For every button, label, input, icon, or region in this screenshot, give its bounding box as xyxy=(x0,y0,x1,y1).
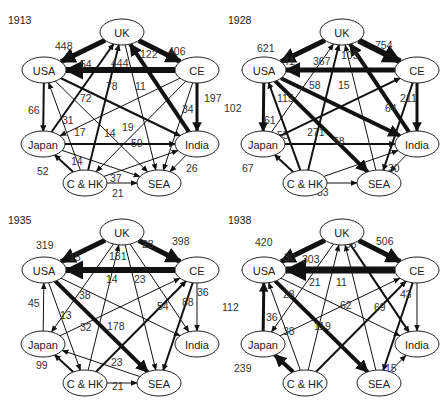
flow-value-label: 17 xyxy=(74,126,86,138)
flow-value-label: 319 xyxy=(36,239,54,251)
flow-value-label: 19 xyxy=(122,121,134,133)
flow-value-label: 67 xyxy=(242,162,254,174)
region-label: C & HK xyxy=(287,178,324,190)
panel-year-label: 1938 xyxy=(228,214,252,226)
flow-value-label: 506 xyxy=(376,235,394,247)
region-label: Japan xyxy=(28,139,58,151)
flow-value-label: 58 xyxy=(309,79,321,91)
flow-arrow-uk-to-sea xyxy=(125,245,156,370)
region-label: UK xyxy=(334,27,350,39)
region-node-japan: Japan xyxy=(241,131,285,157)
flow-value-label: 367 xyxy=(313,55,331,67)
region-label: Japan xyxy=(248,139,278,151)
flow-arrow-usa-to-chk xyxy=(49,283,81,371)
region-label: C & HK xyxy=(287,378,324,390)
flow-value-label: 115 xyxy=(277,92,294,104)
network-panel-1913: 1913448406444122197547811723466311714195… xyxy=(8,14,222,199)
flow-value-label: 54 xyxy=(157,300,169,312)
flow-value-label: 119 xyxy=(314,320,331,332)
region-label: CE xyxy=(409,65,424,77)
region-node-usa: USA xyxy=(22,257,66,283)
flow-value-label: 78 xyxy=(106,80,118,92)
network-panel-1935: 1935319398181152814231338364554883217823… xyxy=(8,214,219,396)
region-node-uk: UK xyxy=(100,219,144,245)
region-label: India xyxy=(405,339,430,351)
flow-value-label: 271 xyxy=(307,126,325,138)
flow-value-label: 178 xyxy=(107,320,125,332)
flow-value-label: 52 xyxy=(37,165,49,177)
flow-value-label: 43 xyxy=(400,288,412,300)
region-node-sea: SEA xyxy=(357,370,401,396)
region-label: UK xyxy=(114,227,130,239)
flow-value-label: 21 xyxy=(112,187,124,199)
region-label: SEA xyxy=(368,378,391,390)
flow-arrow-chk-to-japan xyxy=(55,355,73,372)
network-panel-1938: 1938420506303309621114328626911236381192… xyxy=(222,214,439,396)
region-label: USA xyxy=(33,65,56,77)
flow-arrow-usa-to-japan xyxy=(43,83,44,131)
flow-value-label: 32 xyxy=(80,321,92,333)
flow-value-label: 13 xyxy=(60,309,72,321)
flow-value-label: 211 xyxy=(400,92,417,104)
flow-value-label: 14 xyxy=(104,127,116,139)
region-node-sea: SEA xyxy=(137,170,181,196)
flow-value-label: 30 xyxy=(284,251,296,263)
region-node-chk: C & HK xyxy=(283,170,327,196)
flow-value-label: 61 xyxy=(264,114,276,126)
region-label: India xyxy=(405,139,430,151)
region-node-uk: UK xyxy=(100,19,144,45)
flow-value-label: 28 xyxy=(283,288,295,300)
flow-value-label: 58 xyxy=(333,135,345,147)
flow-value-label: 398 xyxy=(172,235,190,247)
region-label: Japan xyxy=(248,339,278,351)
flow-value-label: 102 xyxy=(224,102,242,114)
region-label: C & HK xyxy=(67,378,104,390)
region-label: USA xyxy=(253,265,276,277)
flow-value-label: 14 xyxy=(106,273,118,285)
flow-value-label: 14 xyxy=(71,155,83,167)
flow-value-label: 21 xyxy=(309,276,321,288)
flow-value-label: 34 xyxy=(182,103,194,115)
flow-value-label: 28 xyxy=(142,238,154,250)
region-node-ce: CE xyxy=(175,57,219,83)
flow-value-label: 15 xyxy=(69,251,81,263)
flow-value-label: 26 xyxy=(186,162,198,174)
region-node-sea: SEA xyxy=(357,170,401,196)
flow-arrow-japan-to-usa xyxy=(43,283,44,331)
region-label: CE xyxy=(409,265,424,277)
region-label: CE xyxy=(189,65,204,77)
region-node-india: India xyxy=(175,131,219,157)
flow-value-label: 62 xyxy=(340,299,352,311)
region-node-sea: SEA xyxy=(137,370,181,396)
flow-value-label: 59 xyxy=(131,137,143,149)
flow-value-label: 621 xyxy=(257,42,275,54)
region-node-india: India xyxy=(175,331,219,357)
region-node-japan: Japan xyxy=(21,131,65,157)
flow-value-label: 38 xyxy=(79,289,91,301)
flow-arrow-uk-to-usa xyxy=(61,240,105,261)
flow-value-label: 36 xyxy=(266,311,278,323)
region-label: C & HK xyxy=(67,178,104,190)
flow-value-label: 38 xyxy=(283,325,295,337)
flow-value-label: 72 xyxy=(80,92,92,104)
region-label: India xyxy=(185,339,210,351)
flow-arrow-sea-to-uk xyxy=(345,45,376,170)
region-node-usa: USA xyxy=(242,257,286,283)
region-node-chk: C & HK xyxy=(63,370,107,396)
flow-arrow-usa-to-sea xyxy=(55,281,147,372)
region-node-uk: UK xyxy=(320,219,364,245)
flow-value-label: 99 xyxy=(36,359,48,371)
panel-year-label: 1913 xyxy=(8,14,32,26)
region-label: USA xyxy=(33,265,56,277)
region-node-uk: UK xyxy=(320,19,364,45)
flow-value-label: 21 xyxy=(112,380,124,392)
trade-network-figure: 1913448406444122197547811723466311714195… xyxy=(0,0,440,406)
region-label: UK xyxy=(334,227,350,239)
region-node-japan: Japan xyxy=(241,331,285,357)
flow-value-label: 448 xyxy=(55,40,73,52)
region-node-japan: Japan xyxy=(21,331,65,357)
region-node-chk: C & HK xyxy=(63,170,107,196)
flow-value-label: 181 xyxy=(109,250,127,262)
flow-value-label: 64 xyxy=(385,102,397,114)
panel-year-label: 1935 xyxy=(8,214,32,226)
